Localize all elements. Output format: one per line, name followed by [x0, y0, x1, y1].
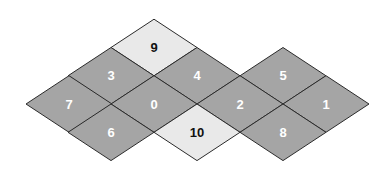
cell-label: 2: [236, 97, 243, 112]
rhombus-lattice-diagram: 934570216108: [0, 0, 389, 172]
cell-label: 0: [150, 97, 157, 112]
cell-group: 934570216108: [26, 19, 369, 160]
cell-label: 6: [107, 125, 114, 140]
cell-label: 8: [279, 125, 286, 140]
cell-label: 3: [107, 68, 114, 83]
cell-label: 7: [65, 97, 72, 112]
cell-label: 1: [322, 97, 329, 112]
cell-label: 9: [150, 40, 157, 55]
cell-label: 4: [193, 68, 201, 83]
cell-label: 10: [190, 125, 204, 140]
cell-label: 5: [279, 68, 286, 83]
